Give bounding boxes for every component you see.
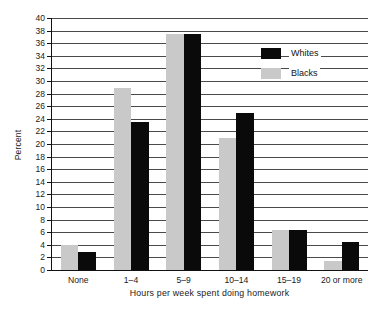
y-tick-mark — [47, 94, 51, 95]
x-tick-label: 20 or more — [321, 276, 363, 285]
legend-item-whites: Whites — [261, 45, 321, 61]
legend-swatch-whites-icon — [261, 48, 281, 59]
legend-label-blacks: Blacks — [289, 68, 320, 79]
y-tick-label: 22 — [36, 127, 45, 136]
y-tick-mark — [47, 119, 51, 120]
y-tick-label: 28 — [36, 89, 45, 98]
y-tick-label: 24 — [36, 115, 45, 124]
y-tick-mark — [47, 220, 51, 221]
bar-whites-0 — [78, 252, 96, 270]
y-tick-mark — [47, 182, 51, 183]
y-tick-label: 16 — [36, 165, 45, 174]
y-tick-mark — [47, 43, 51, 44]
y-tick-label: 18 — [36, 152, 45, 161]
legend-label-whites: Whites — [289, 48, 321, 59]
y-tick-label: 12 — [36, 190, 45, 199]
y-tick-label: 8 — [40, 215, 45, 224]
bar-blacks-2 — [166, 34, 184, 270]
y-tick-label: 0 — [40, 266, 45, 275]
y-tick-label: 32 — [36, 64, 45, 73]
y-tick-label: 34 — [36, 52, 45, 61]
y-tick-label: 38 — [36, 26, 45, 35]
y-tick-mark — [47, 245, 51, 246]
y-tick-label: 4 — [40, 241, 45, 250]
x-axis-title: Hours per week spent doing homework — [51, 288, 368, 298]
x-tick-label: 5–9 — [176, 276, 190, 285]
y-tick-mark — [47, 207, 51, 208]
y-tick-mark — [47, 68, 51, 69]
y-tick-mark — [47, 157, 51, 158]
x-tick-label: 10–14 — [224, 276, 248, 285]
bar-blacks-5 — [324, 261, 342, 270]
bars-layer — [52, 18, 368, 270]
y-tick-label: 20 — [36, 140, 45, 149]
bar-whites-4 — [289, 230, 307, 270]
x-tick-label: 15–19 — [277, 276, 301, 285]
y-tick-label: 10 — [36, 203, 45, 212]
y-tick-label: 14 — [36, 178, 45, 187]
x-axis-line — [51, 270, 368, 271]
y-tick-mark — [47, 270, 51, 271]
y-tick-mark — [47, 106, 51, 107]
y-tick-mark — [47, 56, 51, 57]
legend-item-blacks: Blacks — [261, 65, 321, 81]
x-tick-label: None — [68, 276, 89, 285]
y-tick-mark — [47, 81, 51, 82]
y-tick-label: 36 — [36, 39, 45, 48]
y-tick-mark — [47, 257, 51, 258]
bar-whites-2 — [184, 34, 202, 270]
y-tick-label: 30 — [36, 77, 45, 86]
y-tick-mark — [47, 232, 51, 233]
bar-whites-3 — [236, 113, 254, 270]
x-tick-label: 1–4 — [124, 276, 138, 285]
y-tick-mark — [47, 31, 51, 32]
y-tick-mark — [47, 169, 51, 170]
y-tick-label: 6 — [40, 228, 45, 237]
bar-blacks-4 — [272, 230, 290, 270]
y-axis-title: Percent — [13, 105, 23, 185]
bar-blacks-0 — [61, 245, 79, 270]
y-tick-mark — [47, 194, 51, 195]
bar-whites-1 — [131, 122, 149, 270]
y-tick-label: 26 — [36, 102, 45, 111]
y-tick-label: 2 — [40, 253, 45, 262]
y-tick-mark — [47, 18, 51, 19]
bar-blacks-3 — [219, 138, 237, 270]
y-tick-mark — [47, 131, 51, 132]
y-tick-label: 40 — [36, 14, 45, 23]
legend-swatch-blacks-icon — [261, 68, 281, 79]
bar-blacks-1 — [114, 88, 132, 270]
bar-chart: Percent 02468101214161820222426283032343… — [0, 0, 386, 324]
y-tick-mark — [47, 144, 51, 145]
legend: Whites Blacks — [261, 45, 321, 85]
bar-whites-5 — [342, 242, 360, 270]
